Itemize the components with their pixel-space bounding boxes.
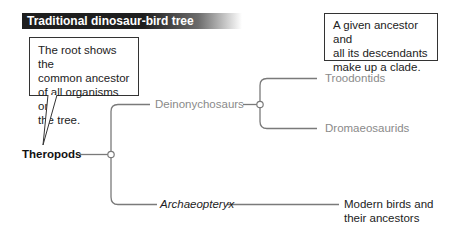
root-node-icon — [108, 151, 114, 157]
label-archaeopteryx: Archaeopteryx — [160, 197, 234, 211]
tree-lines — [0, 0, 450, 228]
deino-node-icon — [257, 101, 263, 107]
main-split — [111, 105, 157, 205]
label-modern-birds: Modern birds and their ancestors — [344, 197, 434, 225]
label-theropods: Theropods — [22, 147, 81, 161]
label-dromaeosaurids: Dromaeosaurids — [325, 121, 409, 135]
deino-split — [260, 79, 317, 129]
modern-birds-line: their ancestors — [344, 211, 434, 225]
label-troodontids: Troodontids — [325, 71, 385, 85]
modern-birds-line: Modern birds and — [344, 197, 434, 211]
label-deinonychosaurs: Deinonychosaurs — [155, 97, 244, 111]
